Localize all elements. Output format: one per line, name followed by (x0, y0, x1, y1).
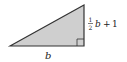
svg-text:1: 1 (89, 16, 93, 23)
right-triangle (10, 5, 84, 46)
base-label: b (45, 50, 51, 61)
svg-text:+: + (103, 19, 111, 29)
triangle-diagram: 1 2 b + 1 b (0, 0, 127, 62)
svg-text:b: b (95, 19, 101, 29)
height-label: 1 2 b + 1 (88, 16, 118, 31)
svg-text:2: 2 (89, 24, 93, 31)
svg-text:1: 1 (112, 19, 118, 29)
